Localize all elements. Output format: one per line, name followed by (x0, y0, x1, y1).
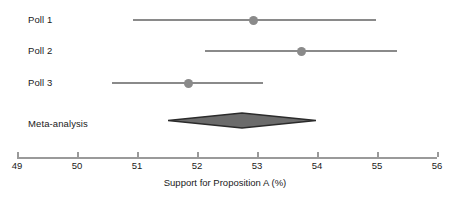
x-axis-tick-51 (137, 152, 139, 157)
study-label-poll-3: Poll 3 (28, 77, 52, 88)
forest-plot: Poll 1 Poll 2 Poll 3 Meta-analysis 49 50… (0, 0, 450, 200)
x-axis-tick-label-51: 51 (123, 160, 151, 171)
x-axis-title: Support for Proposition A (%) (0, 177, 450, 188)
x-axis-tick-54 (317, 152, 319, 157)
x-axis-tick-50 (77, 152, 79, 157)
study-label-poll-2: Poll 2 (28, 45, 52, 56)
x-axis-tick-label-50: 50 (63, 160, 91, 171)
x-axis-tick-label-52: 52 (183, 160, 211, 171)
x-axis-line (17, 157, 437, 159)
point-marker-poll-2 (297, 47, 306, 56)
x-axis-tick-label-56: 56 (423, 160, 450, 171)
summary-diamond (168, 112, 316, 129)
x-axis-tick-label-55: 55 (363, 160, 391, 171)
x-axis-tick-56 (437, 152, 439, 157)
point-marker-poll-3 (184, 79, 193, 88)
study-label-poll-1: Poll 1 (28, 14, 52, 25)
x-axis-tick-label-54: 54 (303, 160, 331, 171)
point-marker-poll-1 (249, 16, 258, 25)
x-axis-tick-55 (377, 152, 379, 157)
x-axis-tick-53 (257, 152, 259, 157)
x-axis-tick-label-53: 53 (243, 160, 271, 171)
study-label-meta-analysis: Meta-analysis (28, 118, 88, 129)
x-axis-tick-49 (17, 152, 19, 157)
x-axis-tick-52 (197, 152, 199, 157)
x-axis-tick-label-49: 49 (3, 160, 31, 171)
